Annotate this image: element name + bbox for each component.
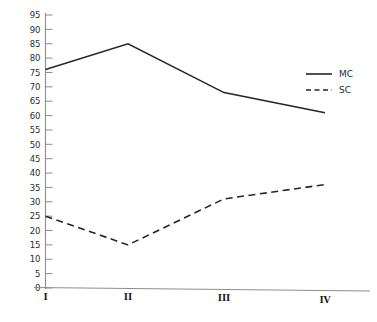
x-axis-line [34,288,370,292]
y-tick-label: 95 [30,10,41,20]
y-tick-label: 50 [30,140,41,150]
y-tick-label: 60 [30,111,41,121]
chart-canvas: 05101520253035404550556065707580859095 I… [0,0,377,322]
chart-legend: MCSC [306,69,353,95]
y-tick-label: 90 [30,25,41,35]
y-axis-group: 05101520253035404550556065707580859095 [30,10,53,293]
series-line-mc [46,44,326,113]
x-tick-label: IV [319,295,331,305]
y-tick-label: 30 [30,197,41,207]
y-tick-label: 85 [30,39,41,49]
y-tick-label: 75 [30,68,41,78]
y-tick-label: 80 [30,53,41,63]
y-tick-label: 15 [30,240,41,250]
y-tick-label: 0 [35,283,40,293]
line-chart: 05101520253035404550556065707580859095 I… [0,0,377,322]
y-tick-labels: 05101520253035404550556065707580859095 [30,10,41,293]
y-tick-label: 65 [30,96,41,106]
y-tick-label: 25 [30,211,41,221]
y-tick-marks [46,15,53,288]
x-tick-label: III [218,293,231,303]
x-tick-labels: IIIIIIIV [43,292,331,305]
x-axis-group: IIIIIIIV [34,288,370,305]
legend-label-mc: MC [339,69,353,79]
y-tick-label: 40 [30,168,41,178]
y-tick-label: 20 [30,226,41,236]
y-tick-label: 10 [30,254,41,264]
y-tick-label: 55 [30,125,41,135]
legend-label-sc: SC [339,85,351,95]
y-tick-label: 45 [30,154,41,164]
y-tick-label: 5 [35,269,40,279]
y-tick-label: 35 [30,183,41,193]
y-tick-label: 70 [30,82,41,92]
plot-series-group [46,44,326,245]
x-tick-label: I [43,292,47,302]
series-line-sc [46,185,326,245]
x-tick-label: II [124,292,132,302]
